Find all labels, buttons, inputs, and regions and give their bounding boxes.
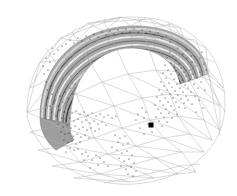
highlight-marker bbox=[149, 123, 154, 128]
figure-canvas bbox=[0, 0, 237, 196]
scene-svg bbox=[0, 0, 237, 196]
